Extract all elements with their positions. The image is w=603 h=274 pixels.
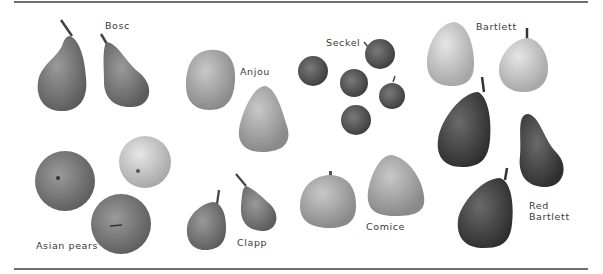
label-red-bartlett-line2: Bartlett: [529, 211, 570, 222]
asian-pear-1: [35, 151, 95, 211]
seckel-pear-3: [340, 69, 368, 97]
clapp-pear-2: [236, 174, 276, 231]
bosc-pear-1: [38, 20, 87, 111]
label-clapp: Clapp: [237, 237, 267, 248]
label-anjou: Anjou: [240, 66, 270, 77]
label-bosc: Bosc: [105, 20, 130, 31]
label-seckel: Seckel: [326, 37, 360, 48]
asian-pear-2: [119, 136, 171, 188]
label-bartlett: Bartlett: [476, 21, 517, 32]
seckel-pear-4: [379, 76, 405, 109]
seckel-pear-1: [298, 56, 328, 86]
anjou-pear-2: [239, 86, 289, 152]
label-comice: Comice: [366, 221, 405, 232]
anjou-pear-1: [186, 50, 235, 110]
seckel-pear-2: [364, 39, 395, 69]
comice-pear-2: [368, 155, 425, 216]
seckel-pear-5: [341, 105, 371, 135]
bartlett-pear-2: [499, 28, 548, 92]
label-red-bartlett-line1: Red: [529, 200, 549, 211]
comice-pear-1: [300, 171, 356, 228]
pear-illustration: [0, 0, 603, 274]
bosc-pear-2: [101, 34, 149, 107]
label-asian-pears: Asian pears: [36, 240, 98, 251]
clapp-pear-1: [187, 190, 226, 250]
asian-pear-3: [91, 194, 151, 254]
red-bartlett-pear-2: [520, 114, 564, 187]
bartlett-pear-1: [427, 22, 474, 86]
red-bartlett-pear-1: [438, 77, 491, 167]
red-bartlett-pear-3: [458, 168, 513, 248]
